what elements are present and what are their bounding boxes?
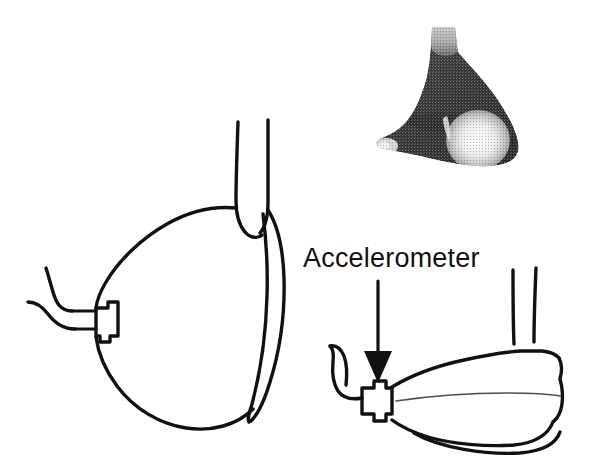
front-view-drawing (28, 120, 284, 429)
front-wire-lead-upper (46, 268, 72, 311)
side-tube-left (513, 270, 514, 344)
front-rim-inner (248, 214, 267, 422)
side-tube-right (534, 268, 536, 342)
side-accelerometer-block (362, 381, 392, 421)
front-accelerometer-block (96, 302, 118, 342)
front-neck-left-wall (236, 122, 245, 232)
side-view-drawing (330, 268, 562, 453)
arrow-down-icon (364, 281, 392, 383)
accelerometer-label: Accelerometer (303, 245, 480, 272)
arrow-head (364, 351, 392, 383)
front-wire-lead-lower (28, 302, 75, 329)
figure-canvas: Accelerometer (0, 0, 606, 471)
front-block-terminals (72, 311, 96, 329)
side-seam-line (396, 393, 560, 401)
side-body-top-edge (392, 351, 559, 387)
photo-inset (370, 18, 530, 174)
photo-halftone-texture (370, 18, 530, 174)
side-body-right-edge (553, 358, 562, 422)
side-rim-line (414, 432, 560, 453)
figure-illustration (0, 0, 606, 471)
